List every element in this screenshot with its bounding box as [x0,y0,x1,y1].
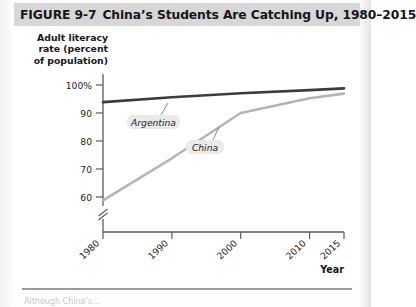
axis-break-icon [99,206,109,220]
series-label-argentina: Argentina [127,115,180,129]
x-tick-label-1: 1990 [146,237,171,261]
figure-title-bar: FIGURE 9-7China’s Students Are Catching … [14,3,360,26]
line-chart-svg: 100% 90 80 70 60 1980 1990 2000 [14,26,360,281]
chart-area: Adult literacy rate (percent of populati… [14,26,360,281]
figure-title: FIGURE 9-7China’s Students Are Catching … [14,8,416,22]
x-tick-label-2: 2000 [214,237,239,261]
x-tick-label-3: 2010 [283,237,308,261]
y-tick-label-4: 60 [80,192,92,203]
x-axis-ticks [103,232,344,239]
figure-number: FIGURE 9-7 [20,8,96,22]
figure-caption-partial: Although China’s… [24,297,354,307]
caption-divider [22,288,352,290]
page-edge-left [0,0,14,307]
page-edge-right [360,0,371,307]
y-tick-label-2: 80 [80,136,92,147]
x-axis-title: Year [319,264,344,275]
y-tick-label-3: 70 [80,164,92,175]
y-tick-label-1: 90 [80,108,92,119]
figure-title-text: China’s Students Are Catching Up, 1980–2… [102,8,416,22]
y-tick-label-0: 100% [66,80,93,91]
series-label-china: China [186,140,224,154]
series-label-china-text: China [192,142,219,153]
x-tick-label-0: 1980 [77,237,102,261]
series-label-argentina-text: Argentina [130,117,176,128]
x-tick-label-4: 2015 [318,237,343,261]
